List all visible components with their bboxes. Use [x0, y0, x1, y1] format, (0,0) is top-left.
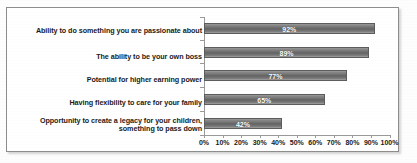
bar-0[interactable]: 92% [204, 23, 375, 34]
category-label-2: Potential for higher earning power [22, 76, 202, 84]
category-label-0: Ability to do something you are passiona… [22, 27, 202, 35]
bar-1[interactable]: 89% [204, 47, 369, 58]
x-axis-tick [278, 135, 279, 138]
x-axis-tick [260, 135, 261, 138]
bar-value-0: 92% [205, 25, 374, 34]
bar-value-2: 77% [205, 72, 346, 81]
x-axis-tick [371, 135, 372, 138]
y-axis-tick [200, 87, 204, 88]
y-axis-tick [200, 63, 204, 64]
category-label-4: Opportunity to create a legacy for your … [22, 117, 202, 134]
bar-value-3: 65% [205, 96, 324, 105]
bar-row[interactable]: 92% [204, 23, 375, 35]
category-label-3: Having flexibility to care for your fami… [22, 99, 202, 107]
x-axis-tick [223, 135, 224, 138]
y-axis-tick [200, 111, 204, 112]
bar-row[interactable]: 77% [204, 70, 347, 82]
bar-row[interactable]: 65% [204, 94, 325, 106]
x-axis-tick [315, 135, 316, 138]
x-axis-tick [352, 135, 353, 138]
x-axis-tick [334, 135, 335, 138]
bar-4[interactable]: 42% [204, 118, 282, 129]
bar-value-1: 89% [205, 49, 368, 58]
x-axis-tick [390, 135, 391, 138]
bar-row[interactable]: 42% [204, 118, 282, 130]
bar-value-4: 42% [205, 120, 281, 129]
x-axis-tick [241, 135, 242, 138]
y-axis-tick [200, 17, 204, 18]
bar-row[interactable]: 89% [204, 47, 369, 59]
bar-3[interactable]: 65% [204, 94, 325, 105]
x-axis-label-10: 100% [379, 139, 401, 146]
x-axis-tick [204, 135, 205, 138]
bar-2[interactable]: 77% [204, 70, 347, 81]
category-label-1: The ability to be your own boss [22, 53, 202, 61]
y-axis-tick [200, 40, 204, 41]
chart-screenshot: Ability to do something you are passiona… [0, 0, 417, 163]
chart-frame: Ability to do something you are passiona… [6, 7, 399, 152]
plot-area: Ability to do something you are passiona… [7, 8, 400, 153]
x-axis-tick [297, 135, 298, 138]
